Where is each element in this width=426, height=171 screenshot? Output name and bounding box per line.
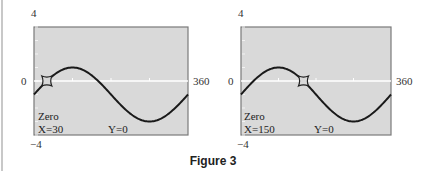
cursor-marker-icon [42, 76, 52, 86]
graph-panel-right: 4 −4 0 360 Zero X=150 Y=0 [207, 0, 420, 150]
figure-caption: Figure 3 [0, 154, 426, 168]
mode-readout: Zero [244, 111, 265, 122]
y-readout: Y=0 [108, 124, 128, 135]
x-readout: X=30 [38, 124, 63, 135]
mode-readout: Zero [38, 111, 59, 122]
x-readout: X=150 [244, 124, 275, 135]
plot-area [0, 0, 213, 150]
cursor-marker-icon [299, 76, 309, 86]
graph-panel-left: 4 −4 0 360 Zero X=30 Y=0 [0, 0, 213, 150]
y-readout: Y=0 [314, 124, 334, 135]
